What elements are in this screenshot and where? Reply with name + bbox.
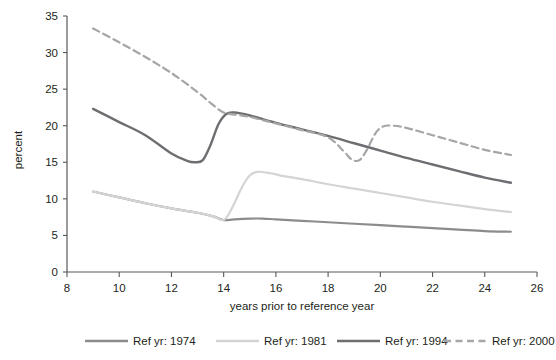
y-axis: 05101520253035 — [45, 10, 67, 278]
x-tick-label: 24 — [478, 282, 491, 294]
y-axis-title: percent — [12, 130, 24, 169]
x-tick-label: 20 — [374, 282, 387, 294]
series-lines — [93, 28, 511, 231]
x-tick-label: 26 — [531, 282, 544, 294]
y-tick-label: 20 — [45, 120, 58, 132]
y-tick-label: 5 — [52, 229, 58, 241]
legend-label-1974: Ref yr: 1974 — [133, 335, 196, 347]
legend-label-1981: Ref yr: 1981 — [264, 335, 327, 347]
x-tick-label: 22 — [426, 282, 439, 294]
line-chart: 05101520253035 8101214161820222426 perce… — [0, 0, 556, 360]
x-tick-label: 18 — [322, 282, 335, 294]
x-axis-title: years prior to reference year — [230, 300, 375, 312]
x-tick-label: 10 — [113, 282, 126, 294]
y-tick-label: 10 — [45, 193, 58, 205]
y-tick-label: 25 — [45, 83, 58, 95]
y-tick-label: 15 — [45, 156, 58, 168]
x-tick-label: 16 — [269, 282, 282, 294]
y-tick-label: 0 — [52, 266, 58, 278]
x-axis: 8101214161820222426 — [64, 272, 544, 294]
series-line-1981 — [93, 172, 511, 221]
legend-label-1994: Ref yr: 1994 — [385, 335, 448, 347]
x-tick-label: 8 — [64, 282, 70, 294]
series-line-1994 — [93, 109, 511, 183]
y-tick-label: 35 — [45, 10, 58, 22]
chart-container: 05101520253035 8101214161820222426 perce… — [0, 0, 556, 360]
chart-legend: Ref yr: 1974Ref yr: 1981Ref yr: 1994Ref … — [85, 335, 555, 347]
series-line-1974 — [93, 192, 511, 232]
y-tick-label: 30 — [45, 47, 58, 59]
x-tick-label: 14 — [217, 282, 230, 294]
x-tick-label: 12 — [165, 282, 178, 294]
legend-label-2000: Ref yr: 2000 — [492, 335, 555, 347]
